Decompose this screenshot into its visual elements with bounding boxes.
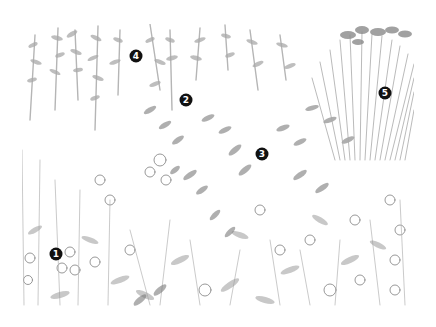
marker-3: 3 [256,148,269,161]
ornamental-grass-fan [312,32,414,160]
background-leaf-dashes [27,29,297,102]
foreground-stems [22,150,405,305]
marker-4: 4 [130,50,143,63]
garden-sketch-canvas: 1 2 3 4 5 [0,0,436,327]
dark-hatch-clumps [132,164,237,307]
foreground-flowers [24,154,406,296]
foreground-leaves [27,213,388,305]
garden-sketch-illustration [0,0,436,327]
grass-seedheads [340,26,412,45]
marker-2: 2 [180,94,193,107]
marker-1: 1 [50,248,63,261]
marker-5: 5 [379,87,392,100]
